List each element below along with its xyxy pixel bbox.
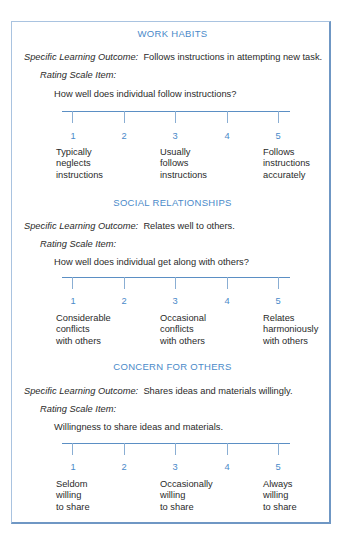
outcome-text: Shares ideas and materials willingly. <box>143 386 292 396</box>
scale-point-4[interactable]: 4 <box>221 131 233 141</box>
outcome-text: Follows instructions in attempting new t… <box>143 52 322 62</box>
section-heading: WORK HABITS <box>0 28 345 39</box>
outcome-label: Specific Learning Outcome: <box>24 386 138 396</box>
scale-point-3[interactable]: 3 <box>169 131 181 141</box>
scale-point-3[interactable]: 3 <box>169 296 181 306</box>
learning-outcome: Specific Learning Outcome: Follows instr… <box>24 52 322 62</box>
rating-scale-label: Rating Scale Item: <box>40 239 116 249</box>
scale-point-5[interactable]: 5 <box>272 462 284 472</box>
scale-tick <box>72 443 73 455</box>
anchor-description-5: Relatesharmoniouslywith others <box>263 313 318 347</box>
scale-tick <box>124 111 125 123</box>
scale-point-1[interactable]: 1 <box>67 462 79 472</box>
scale-tick <box>72 277 73 289</box>
learning-outcome: Specific Learning Outcome: Shares ideas … <box>24 386 293 396</box>
anchor-description-5: Alwayswillingto share <box>263 479 297 513</box>
rating-scale-line <box>62 111 290 125</box>
section-heading: CONCERN FOR OTHERS <box>0 361 345 372</box>
scale-tick <box>278 443 279 455</box>
section-heading: SOCIAL RELATIONSHIPS <box>0 197 345 208</box>
outcome-label: Specific Learning Outcome: <box>24 52 138 62</box>
scale-tick <box>124 277 125 289</box>
anchor-description-1: Typicallyneglectsinstructions <box>56 147 103 181</box>
scale-point-2[interactable]: 2 <box>118 131 130 141</box>
outcome-text: Relates well to others. <box>143 221 234 231</box>
scale-tick <box>175 277 176 289</box>
scale-point-4[interactable]: 4 <box>221 296 233 306</box>
scale-tick <box>227 277 228 289</box>
outcome-label: Specific Learning Outcome: <box>24 221 138 231</box>
anchor-description-1: Considerableconflictswith others <box>56 313 111 347</box>
scale-tick <box>227 111 228 123</box>
scale-point-5[interactable]: 5 <box>272 296 284 306</box>
scale-tick <box>227 443 228 455</box>
scale-point-1[interactable]: 1 <box>67 296 79 306</box>
rating-scale-line <box>62 443 290 457</box>
scale-point-4[interactable]: 4 <box>221 462 233 472</box>
scale-axis <box>62 443 290 444</box>
rating-question: How well does individual follow instruct… <box>54 89 236 99</box>
scale-point-2[interactable]: 2 <box>118 462 130 472</box>
rating-question: How well does individual get along with … <box>54 257 249 267</box>
scale-tick <box>72 111 73 123</box>
anchor-description-3: Occasionalconflictswith others <box>160 313 206 347</box>
anchor-description-1: Seldomwillingto share <box>56 479 90 513</box>
rating-scale-line <box>62 277 290 291</box>
scale-axis <box>62 277 290 278</box>
scale-tick <box>278 277 279 289</box>
rating-question: Willingness to share ideas and materials… <box>54 422 223 432</box>
scale-tick <box>124 443 125 455</box>
anchor-description-5: Followsinstructionsaccurately <box>263 147 310 181</box>
scale-axis <box>62 111 290 112</box>
scale-point-2[interactable]: 2 <box>118 296 130 306</box>
learning-outcome: Specific Learning Outcome: Relates well … <box>24 221 235 231</box>
scale-tick <box>278 111 279 123</box>
scale-point-3[interactable]: 3 <box>169 462 181 472</box>
anchor-description-3: Usuallyfollowsinstructions <box>160 147 207 181</box>
scale-point-1[interactable]: 1 <box>67 131 79 141</box>
scale-tick <box>175 443 176 455</box>
rating-scale-label: Rating Scale Item: <box>40 70 116 80</box>
scale-point-5[interactable]: 5 <box>272 131 284 141</box>
rating-scale-label: Rating Scale Item: <box>40 404 116 414</box>
scale-tick <box>175 111 176 123</box>
anchor-description-3: Occasionallywillingto share <box>160 479 213 513</box>
